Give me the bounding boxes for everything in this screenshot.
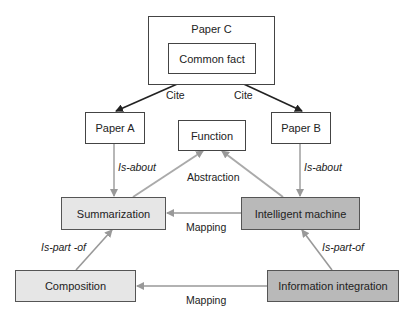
information-integration-node: Information integration xyxy=(267,270,399,302)
paper-c-label: Paper C xyxy=(191,23,231,35)
composition-node: Composition xyxy=(15,270,136,302)
is-part-of-label-right: Is-part-of xyxy=(322,241,364,253)
common-fact-node: Common fact xyxy=(168,43,256,74)
composition-label: Composition xyxy=(45,280,106,292)
paper-a-label: Paper A xyxy=(95,122,134,134)
abstraction-label: Abstraction xyxy=(187,171,240,183)
function-label: Function xyxy=(191,130,233,142)
summarization-label: Summarization xyxy=(77,208,150,220)
summarization-node: Summarization xyxy=(61,197,166,230)
intelligent-machine-node: Intelligent machine xyxy=(241,197,360,230)
common-fact-label: Common fact xyxy=(179,53,244,65)
is-about-label-left: Is-about xyxy=(118,161,156,173)
paper-a-node: Paper A xyxy=(85,112,145,144)
paper-b-label: Paper B xyxy=(281,122,321,134)
paper-b-node: Paper B xyxy=(271,112,331,144)
cite-label-left: Cite xyxy=(166,89,185,101)
intelligent-machine-label: Intelligent machine xyxy=(255,208,347,220)
function-node: Function xyxy=(178,120,246,151)
is-about-label-right: Is-about xyxy=(304,161,342,173)
mapping-label-bottom: Mapping xyxy=(186,294,226,306)
is-part-of-label-left: Is-part -of xyxy=(41,241,86,253)
information-integration-label: Information integration xyxy=(278,280,387,292)
mapping-label-top: Mapping xyxy=(186,221,226,233)
cite-label-right: Cite xyxy=(234,89,253,101)
